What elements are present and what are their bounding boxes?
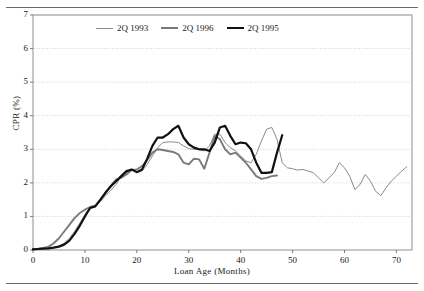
line-chart-svg (0, 0, 424, 291)
legend-label: 2Q 1993 (117, 23, 148, 33)
legend-swatch-line-icon (227, 27, 244, 29)
legend-label: 2Q 1996 (182, 23, 213, 33)
legend-swatch-line-icon (161, 27, 178, 29)
legend-item: 2Q 1993 (96, 23, 148, 33)
x-tick-label: 20 (124, 255, 150, 265)
legend-label: 2Q 1995 (248, 23, 279, 33)
series-line-2q-1995 (33, 126, 282, 250)
chart-legend: 2Q 19932Q 19962Q 1995 (96, 23, 279, 33)
y-tick-label: 2 (6, 177, 28, 187)
x-tick-label: 10 (72, 255, 98, 265)
legend-item: 2Q 1996 (161, 23, 213, 33)
series-line-2q-1996 (33, 136, 277, 249)
series-line-2q-1993 (33, 127, 407, 249)
chart-plot (0, 0, 424, 291)
y-tick-label: 1 (6, 210, 28, 220)
x-axis-label: Loan Age (Months) (0, 266, 424, 276)
figure-container: CPR (%) Loan Age (Months) 01234567 01020… (0, 0, 424, 291)
y-tick-label: 4 (6, 110, 28, 120)
legend-item: 2Q 1995 (227, 23, 279, 33)
x-tick-label: 40 (228, 255, 254, 265)
y-tick-label: 6 (6, 43, 28, 53)
x-tick-label: 60 (332, 255, 358, 265)
y-tick-label: 3 (6, 143, 28, 153)
y-tick-label: 7 (6, 9, 28, 19)
x-tick-label: 50 (280, 255, 306, 265)
x-tick-label: 30 (176, 255, 202, 265)
plot-frame (33, 15, 412, 250)
x-tick-label: 70 (383, 255, 409, 265)
y-tick-label: 5 (6, 76, 28, 86)
x-tick-label: 0 (20, 255, 46, 265)
y-tick-label: 0 (6, 244, 28, 254)
legend-swatch-line-icon (96, 28, 113, 29)
grid-lines (34, 15, 411, 216)
